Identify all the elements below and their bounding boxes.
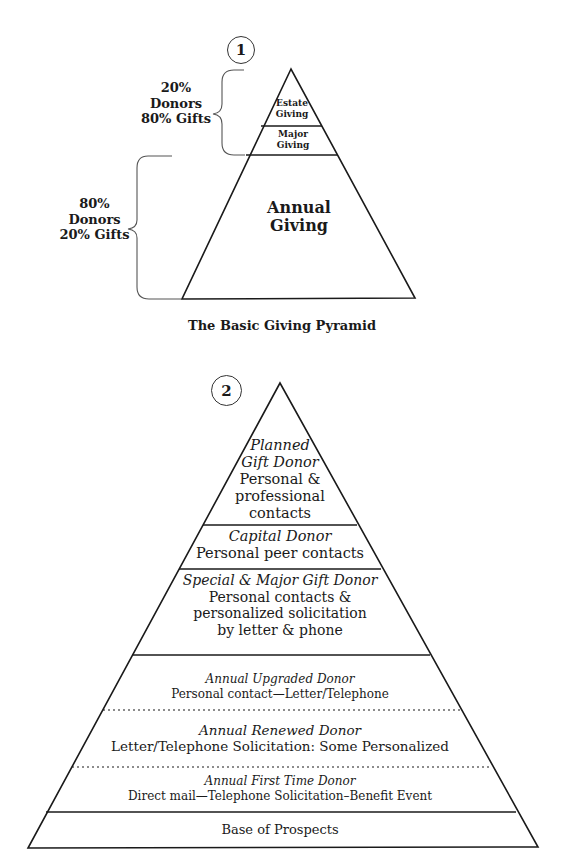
tier-annual-upgraded-donor: Annual Upgraded Donor Personal contact—L… xyxy=(130,672,430,703)
tier-title: Annual Renewed Donor xyxy=(80,722,480,738)
tier-annual-giving: Annual Giving xyxy=(254,199,344,234)
pyramid-1-caption: The Basic Giving Pyramid xyxy=(182,318,382,333)
tier-major-giving: Major Giving xyxy=(262,129,324,150)
tier-title: Planned xyxy=(220,437,340,454)
percent-donors: 20% xyxy=(136,80,216,96)
tier-description: by letter & phone xyxy=(170,622,390,639)
tier-description: personalized solicitation xyxy=(170,605,390,622)
badge-number: 2 xyxy=(221,382,231,400)
tier-title: Annual First Time Donor xyxy=(80,774,480,789)
tier-label: Annual xyxy=(254,199,344,217)
tier-capital-donor: Capital Donor Personal peer contacts xyxy=(190,528,370,562)
donors-label: Donors xyxy=(52,212,137,228)
tier-description: Base of Prospects xyxy=(180,822,380,837)
tier-description: Letter/Telephone Solicitation: Some Pers… xyxy=(80,738,480,754)
donors-label: Donors xyxy=(136,96,216,112)
badge-number: 1 xyxy=(236,41,246,59)
tier-label: Major xyxy=(262,129,324,140)
tier-title: Capital Donor xyxy=(190,528,370,545)
percent-donors: 80% xyxy=(52,196,137,212)
pyramid-2-badge: 2 xyxy=(211,375,242,406)
tier-label: Giving xyxy=(254,217,344,235)
tier-description: professional xyxy=(220,488,340,505)
tier-annual-first-time-donor: Annual First Time Donor Direct mail—Tele… xyxy=(80,774,480,804)
brace-top-icon xyxy=(213,70,245,155)
percent-gifts: 80% Gifts xyxy=(136,111,216,127)
tier-title: Special & Major Gift Donor xyxy=(170,572,390,589)
tier-description: Personal contact—Letter/Telephone xyxy=(130,687,430,702)
pyramid-1-badge: 1 xyxy=(227,36,255,64)
brace-top-label: 20% Donors 80% Gifts xyxy=(136,80,216,127)
tier-label: Giving xyxy=(261,109,323,120)
tier-description: Personal contacts & xyxy=(170,589,390,606)
tier-title: Annual Upgraded Donor xyxy=(130,672,430,687)
tier-description: contacts xyxy=(220,505,340,522)
tier-annual-renewed-donor: Annual Renewed Donor Letter/Telephone So… xyxy=(80,722,480,755)
tier-special-major-gift-donor: Special & Major Gift Donor Personal cont… xyxy=(170,572,390,638)
tier-description: Personal peer contacts xyxy=(190,545,370,562)
tier-estate-giving: Estate Giving xyxy=(261,98,323,119)
tier-description: Personal & xyxy=(220,471,340,488)
tier-planned-gift-donor: Planned Gift Donor Personal & profession… xyxy=(220,437,340,523)
tier-label: Giving xyxy=(262,140,324,151)
brace-bottom-label: 80% Donors 20% Gifts xyxy=(52,196,137,243)
tier-label: Estate xyxy=(261,98,323,109)
tier-description: Direct mail—Telephone Solicitation–Benef… xyxy=(80,789,480,804)
percent-gifts: 20% Gifts xyxy=(52,227,137,243)
tier-title: Gift Donor xyxy=(220,454,340,471)
tier-base-of-prospects: Base of Prospects xyxy=(180,822,380,837)
